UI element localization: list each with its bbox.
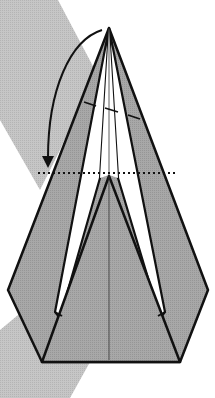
diagram-canvas (0, 0, 215, 398)
origami-diagram: Fold the top point down to the dotted li… (0, 0, 215, 398)
